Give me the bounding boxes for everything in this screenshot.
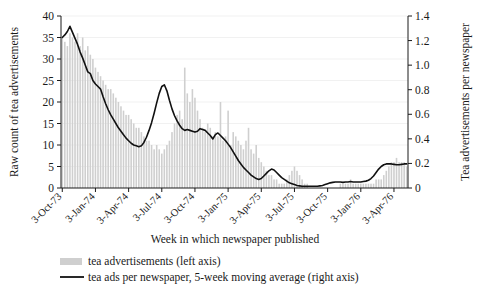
bar bbox=[110, 89, 112, 188]
bar bbox=[179, 111, 181, 188]
bar bbox=[342, 184, 344, 188]
bar bbox=[281, 184, 283, 188]
bar bbox=[212, 136, 214, 188]
y-tick-label: 10 bbox=[43, 139, 55, 151]
bar bbox=[291, 171, 293, 188]
y2-tick-label: 0.6 bbox=[415, 108, 430, 120]
bar bbox=[192, 89, 194, 188]
x-tick-label: 3-Apr-75 bbox=[227, 191, 262, 226]
left-axis-ticks bbox=[57, 16, 61, 188]
bar bbox=[398, 162, 400, 188]
x-tick-label: 3-Apr-74 bbox=[95, 190, 131, 226]
bar bbox=[197, 111, 199, 188]
y2-tick-label: 1.2 bbox=[415, 35, 430, 47]
bar bbox=[158, 149, 160, 188]
bar bbox=[120, 106, 122, 188]
bar bbox=[113, 93, 115, 188]
bar bbox=[148, 141, 150, 188]
bar bbox=[375, 179, 377, 188]
bar bbox=[133, 124, 135, 189]
bar bbox=[368, 184, 370, 188]
bar bbox=[222, 141, 224, 188]
bar bbox=[97, 72, 99, 188]
bar bbox=[187, 93, 189, 188]
bottom-axis-ticklabels: 3-Oct-733-Jan-743-Apr-743-Jul-743-Oct-74… bbox=[29, 190, 395, 226]
bar bbox=[220, 102, 222, 188]
bar bbox=[273, 179, 275, 188]
bar bbox=[138, 128, 140, 188]
bar bbox=[225, 136, 227, 188]
bar bbox=[255, 145, 257, 188]
bar bbox=[135, 128, 137, 188]
bar bbox=[69, 33, 71, 188]
bar bbox=[396, 158, 398, 188]
y2-tick-label: 0 bbox=[415, 182, 421, 194]
bar bbox=[276, 179, 278, 188]
bar bbox=[176, 115, 178, 188]
y2-tick-label: 0.4 bbox=[415, 133, 430, 145]
bar bbox=[115, 98, 117, 188]
bar bbox=[77, 33, 79, 188]
bar bbox=[95, 68, 97, 188]
y2-tick-label: 1.0 bbox=[415, 59, 430, 71]
x-tick-label: 3-Jul-75 bbox=[263, 191, 296, 224]
bar bbox=[403, 162, 405, 188]
y2-axis-title: Tea advertisements per newspaper bbox=[459, 23, 472, 181]
bar bbox=[64, 42, 66, 188]
bar bbox=[271, 175, 273, 188]
bar bbox=[107, 89, 109, 188]
y-tick-label: 40 bbox=[43, 10, 55, 22]
bar bbox=[61, 38, 63, 189]
bar bbox=[245, 141, 247, 188]
bar bbox=[156, 145, 158, 188]
bar bbox=[171, 132, 173, 188]
x-axis-title: Week in which newspaper published bbox=[151, 233, 320, 246]
y-tick-label: 20 bbox=[43, 96, 55, 108]
bar bbox=[240, 145, 242, 188]
chart-svg: 0510152025303540 00.20.40.60.81.01.21.4 … bbox=[0, 0, 485, 297]
x-tick-label: 3-Jan-76 bbox=[328, 191, 362, 225]
bar bbox=[350, 179, 352, 188]
bar bbox=[406, 167, 408, 189]
y2-tick-label: 0.8 bbox=[415, 84, 430, 96]
bar bbox=[383, 175, 385, 188]
bar bbox=[386, 171, 388, 188]
bar bbox=[261, 162, 263, 188]
x-tick-label: 3-Oct-73 bbox=[29, 191, 64, 226]
bar bbox=[370, 184, 372, 188]
bar bbox=[189, 102, 191, 188]
bar bbox=[357, 184, 359, 188]
bar bbox=[352, 184, 354, 188]
x-tick-label: 3-Oct-74 bbox=[162, 190, 197, 225]
bar bbox=[363, 184, 365, 188]
y-tick-label: 5 bbox=[48, 161, 54, 173]
bar bbox=[151, 145, 153, 188]
x-tick-label: 3-Jul-74 bbox=[131, 190, 164, 223]
y-tick-label: 25 bbox=[43, 75, 55, 87]
bar bbox=[215, 132, 217, 188]
legend-label-line: tea ads per newspaper, 5-week moving ave… bbox=[88, 271, 359, 284]
bar bbox=[401, 162, 403, 188]
x-tick-label: 3-Apr-76 bbox=[360, 191, 395, 226]
y-tick-label: 15 bbox=[43, 118, 55, 130]
right-axis-ticks bbox=[408, 16, 412, 188]
bar-series bbox=[61, 33, 407, 188]
legend-label-bars: tea advertisements (left axis) bbox=[88, 255, 221, 268]
y2-tick-label: 1.4 bbox=[415, 10, 430, 22]
x-tick-label: 3-Oct-75 bbox=[294, 191, 329, 226]
bar bbox=[184, 68, 186, 188]
bottom-axis-ticks bbox=[62, 188, 394, 192]
bar bbox=[166, 145, 168, 188]
bar bbox=[347, 184, 349, 188]
bar bbox=[388, 167, 390, 189]
bar bbox=[391, 162, 393, 188]
bar bbox=[164, 149, 166, 188]
bar bbox=[169, 141, 171, 188]
x-tick-label: 3-Jan-74 bbox=[63, 190, 97, 224]
bar bbox=[283, 184, 285, 188]
bar bbox=[204, 132, 206, 188]
bar bbox=[253, 154, 255, 188]
bar bbox=[378, 179, 380, 188]
y-tick-label: 30 bbox=[43, 53, 55, 65]
bar bbox=[87, 46, 89, 188]
